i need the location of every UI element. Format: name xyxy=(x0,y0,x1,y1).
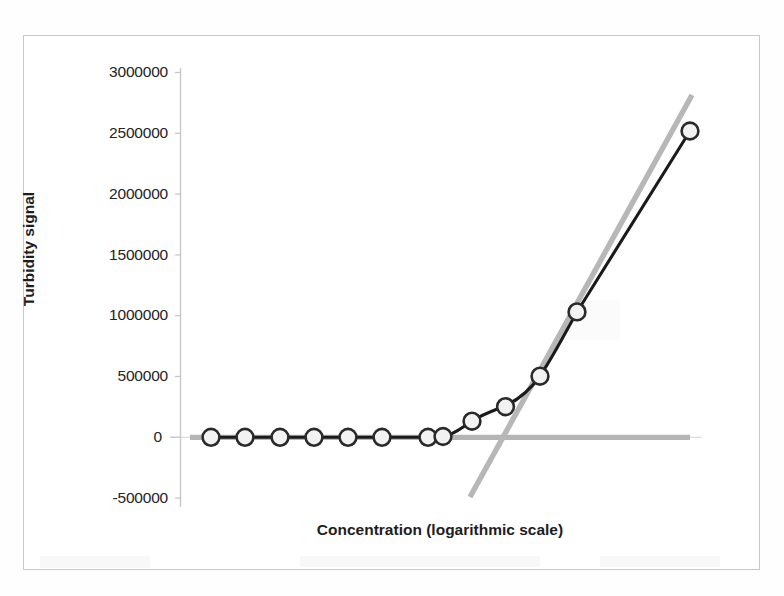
y-tick-label-1000000: 1000000 xyxy=(60,306,168,324)
data-point-marker xyxy=(435,428,452,445)
data-point-marker xyxy=(340,429,357,446)
x-axis-title: Concentration (logarithmic scale) xyxy=(180,521,700,539)
data-point-marker xyxy=(237,429,254,446)
data-point-marker xyxy=(203,429,220,446)
data-point-marker xyxy=(272,429,289,446)
response-series-line xyxy=(211,131,690,437)
y-axis-ticks xyxy=(170,73,181,499)
y-tick-label-2000000: 2000000 xyxy=(60,185,168,203)
data-point-marker xyxy=(532,368,549,385)
y-tick-label-3000000: 3000000 xyxy=(60,63,168,81)
data-point-marker xyxy=(497,398,514,415)
response-series-markers xyxy=(203,123,699,446)
data-point-marker xyxy=(682,123,699,140)
y-tick-label-0: 0 xyxy=(60,428,162,446)
y-tick-label-1500000: 1500000 xyxy=(60,246,168,264)
y-axis-title: Turbidity signal xyxy=(20,154,38,344)
y-tick-label-500000: 500000 xyxy=(60,367,168,385)
y-tick-label-minus500000: -500000 xyxy=(60,489,168,507)
data-point-marker xyxy=(569,304,586,321)
data-point-marker xyxy=(464,413,481,430)
data-point-marker xyxy=(374,429,391,446)
chart-figure: 3000000 2500000 2000000 1500000 1000000 … xyxy=(0,0,784,596)
y-tick-label-2500000: 2500000 xyxy=(60,124,168,142)
data-point-marker xyxy=(306,429,323,446)
